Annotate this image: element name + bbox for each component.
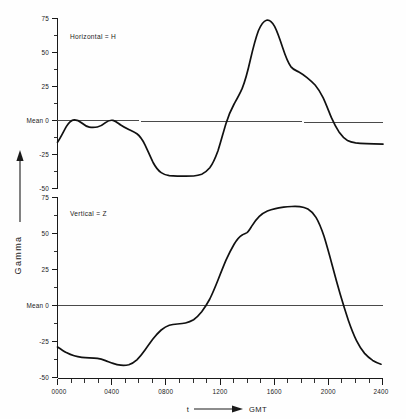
- panel-vertical-z: 75 50 25 Mean 0 -25 -50 Vertical = Z: [26, 194, 388, 395]
- bottom-mean-label: Mean 0: [26, 302, 49, 309]
- curve-horizontal-h: [58, 20, 384, 176]
- panel-horizontal-h: 75 50 25 Mean 0 -25 -50 Horizontal = H: [26, 15, 383, 192]
- bottom-ylabel-50: 50: [41, 230, 49, 237]
- bottom-ylabel-75: 75: [41, 194, 49, 201]
- x-axis-ticks: [58, 379, 383, 386]
- bottom-ylabel-neg50: -50: [39, 374, 49, 381]
- xlabel-2000: 2000: [321, 388, 336, 395]
- top-ylabel-neg25: -25: [39, 151, 49, 158]
- x-axis-caption-gmt: GMT: [249, 405, 267, 414]
- top-ylabel-neg50: -50: [39, 185, 49, 192]
- magnetogram-figure: Gamma 75 50 25 Mean 0 -25 -50: [0, 0, 406, 419]
- up-arrow-icon: [16, 150, 23, 161]
- xlabel-0800: 0800: [158, 388, 173, 395]
- xlabel-1600: 1600: [267, 388, 282, 395]
- top-mean-label: Mean 0: [26, 117, 49, 124]
- x-axis-tick-labels: 0000 0400 0800 1200 1600 2000 2400: [51, 388, 388, 395]
- xlabel-2400: 2400: [373, 388, 388, 395]
- bottom-ylabel-25: 25: [41, 266, 49, 273]
- x-axis-caption-t: t: [187, 405, 190, 414]
- plot-canvas: Gamma 75 50 25 Mean 0 -25 -50: [0, 0, 406, 419]
- y-axis-title-group: Gamma: [13, 150, 24, 275]
- top-ylabel-75: 75: [41, 15, 49, 22]
- xlabel-0400: 0400: [104, 388, 119, 395]
- right-arrow-icon: [232, 405, 243, 412]
- x-axis-caption-group: t GMT: [187, 405, 267, 414]
- top-ylabel-50: 50: [41, 49, 49, 56]
- bottom-ylabel-neg25: -25: [39, 338, 49, 345]
- y-axis-title: Gamma: [13, 235, 23, 274]
- xlabel-1200: 1200: [212, 388, 227, 395]
- bottom-panel-label: Vertical = Z: [70, 210, 107, 217]
- curve-vertical-z: [58, 206, 382, 365]
- xlabel-0000: 0000: [51, 388, 66, 395]
- top-panel-label: Horizontal = H: [70, 33, 116, 40]
- top-ylabel-25: 25: [41, 83, 49, 90]
